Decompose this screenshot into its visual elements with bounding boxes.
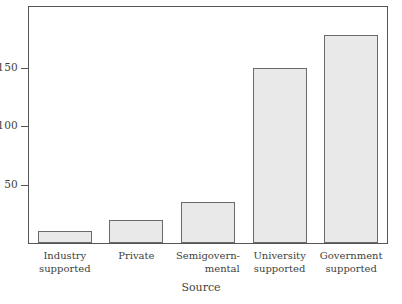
x-axis-title: Source xyxy=(0,281,402,294)
x-axis-label-line1: Government xyxy=(315,250,387,263)
bar-industry-supported xyxy=(38,231,92,243)
bar-chart: 50100150 IndustrysupportedPrivateSemigov… xyxy=(0,0,402,304)
bar-private xyxy=(109,220,163,243)
x-axis-label-semigovernmental: Semigovern-mental xyxy=(172,250,244,275)
x-axis-label-line2: supported xyxy=(29,263,101,276)
x-axis-label-government-supported: Governmentsupported xyxy=(315,250,387,275)
y-axis-tick-label: 100 xyxy=(0,120,18,131)
x-axis-label-industry-supported: Industrysupported xyxy=(29,250,101,275)
y-axis-tick xyxy=(21,126,29,127)
bar-university-supported xyxy=(253,68,307,243)
x-axis-label-line2: supported xyxy=(315,263,387,276)
y-axis-tick xyxy=(21,68,29,69)
y-axis-tick-label: 150 xyxy=(0,62,18,73)
y-axis-tick-label: 50 xyxy=(0,179,18,190)
x-axis-label-line1: Industry xyxy=(29,250,101,263)
x-axis-label-line2: supported xyxy=(244,263,316,276)
bar-government-supported xyxy=(324,35,378,243)
x-axis-label-line2: mental xyxy=(172,263,244,276)
x-axis-label-line1: Semigovern- xyxy=(172,250,244,263)
y-axis-tick xyxy=(21,185,29,186)
x-axis-label-university-supported: Universitysupported xyxy=(244,250,316,275)
x-axis-label-line1: University xyxy=(244,250,316,263)
bar-semigovernmental xyxy=(181,202,235,243)
x-axis-label-line1: Private xyxy=(101,250,173,263)
bars-layer xyxy=(29,7,387,243)
x-axis-label-private: Private xyxy=(101,250,173,263)
